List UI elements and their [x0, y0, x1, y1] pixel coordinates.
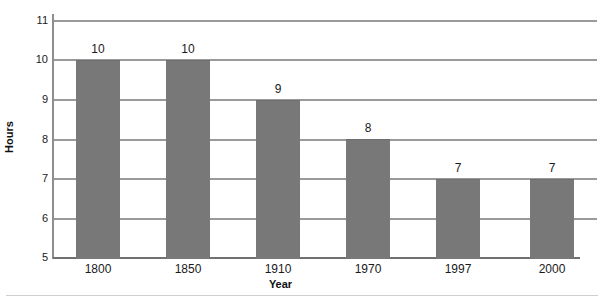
- bar-1997: [436, 179, 480, 259]
- bar-value-2000: 7: [530, 162, 574, 175]
- gridline-9: [53, 99, 597, 101]
- gridline-6: [53, 218, 597, 220]
- footer-divider: [6, 295, 598, 296]
- y-axis-line: [52, 14, 54, 259]
- bar-value-1800: 10: [76, 43, 120, 56]
- y-tick-label-9: 9: [26, 94, 48, 105]
- y-tick-label-11: 11: [26, 15, 48, 26]
- bar-1910: [256, 100, 300, 259]
- x-tick-label-1910: 1910: [248, 262, 308, 276]
- x-tick-label-2000: 2000: [522, 262, 582, 276]
- bar-value-1850: 10: [166, 43, 210, 56]
- x-axis-line: [53, 257, 580, 259]
- x-axis-title: Year: [53, 278, 508, 290]
- bar-value-1910: 9: [256, 83, 300, 96]
- y-tick-label-8: 8: [26, 134, 48, 145]
- bar-chart-figure: 11 10 9 8 7 6 5 Hours 10 10 9 8: [0, 0, 604, 301]
- bar-value-1997: 7: [436, 162, 480, 175]
- bar-value-1970: 8: [346, 122, 390, 135]
- gridline-11: [53, 20, 597, 22]
- bar-1850: [166, 60, 210, 259]
- y-tick-label-10: 10: [26, 54, 48, 65]
- bar-2000: [530, 179, 574, 259]
- x-tick-label-1970: 1970: [338, 262, 398, 276]
- plot-area: 11 10 9 8 7 6 5 Hours 10 10 9 8: [0, 0, 604, 301]
- x-tick-label-1997: 1997: [428, 262, 488, 276]
- gridline-7: [53, 178, 597, 180]
- gridline-10: [53, 59, 597, 61]
- x-tick-label-1800: 1800: [68, 262, 128, 276]
- bar-1800: [76, 60, 120, 259]
- x-tick-label-1850: 1850: [158, 262, 218, 276]
- y-axis-title: Hours: [3, 107, 15, 167]
- gridline-8: [53, 139, 597, 141]
- y-tick-label-5: 5: [26, 252, 48, 263]
- y-tick-label-7: 7: [26, 173, 48, 184]
- bar-1970: [346, 139, 390, 259]
- y-tick-label-6: 6: [26, 213, 48, 224]
